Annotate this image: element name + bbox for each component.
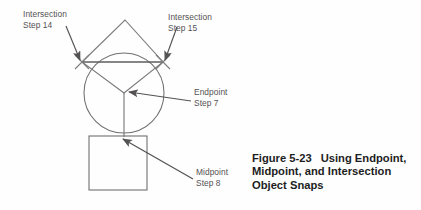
diamond-shape: [82, 20, 163, 93]
annotation-title: Intersection: [168, 12, 212, 22]
annotation-step: Step 7: [194, 98, 227, 109]
annotation-title: Midpoint: [196, 167, 228, 177]
leader-line-endpoint-7: [129, 92, 191, 101]
annotation-title: Endpoint: [194, 87, 227, 97]
annotation-intersection-step-15: Intersection Step 15: [168, 12, 212, 33]
figure-caption-number: Figure 5-23: [252, 152, 312, 164]
annotation-endpoint-step-7: Endpoint Step 7: [194, 87, 227, 108]
square-shape: [89, 136, 147, 190]
annotation-midpoint-step-8: Midpoint Step 8: [196, 167, 228, 188]
leader-line-intersection-14: [66, 26, 80, 60]
annotation-step: Step 8: [196, 178, 228, 189]
figure-page: Intersection Step 14 Intersection Step 1…: [0, 0, 421, 210]
annotation-intersection-step-14: Intersection Step 14: [23, 9, 67, 30]
annotation-title: Intersection: [23, 9, 67, 19]
figure-caption: Figure 5-23Using Endpoint, Midpoint, and…: [252, 152, 418, 192]
annotation-step: Step 15: [168, 23, 212, 34]
leader-line-midpoint-8: [123, 139, 193, 179]
annotation-step: Step 14: [23, 20, 67, 31]
